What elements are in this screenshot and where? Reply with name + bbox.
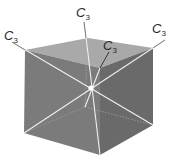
axis-label-1: C3 (4, 28, 18, 45)
cube-diagram: C3 C3 C3 C3 (0, 0, 174, 162)
center-point (88, 85, 93, 90)
cube-left-face (24, 50, 100, 155)
axis-label-3: C3 (76, 5, 90, 22)
axis-label-2: C3 (152, 21, 166, 38)
axis-line-2-outer (153, 40, 165, 48)
axis-label-4: C3 (103, 38, 117, 55)
